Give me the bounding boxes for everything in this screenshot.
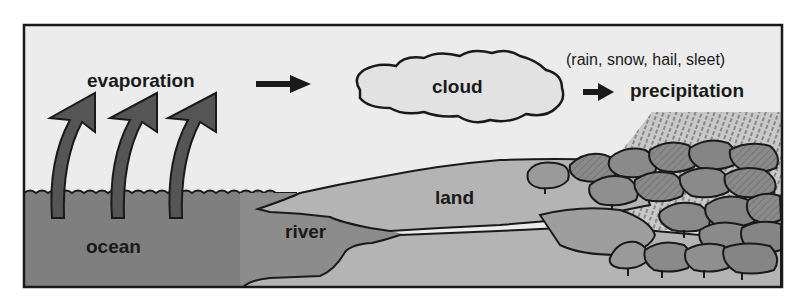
label-river: river [285,222,326,241]
label-land: land [435,188,474,207]
diagram-canvas [0,0,804,306]
label-cloud: cloud [432,77,483,96]
label-ocean: ocean [86,237,141,256]
label-evaporation: evaporation [87,71,195,90]
label-precipitation: precipitation [630,81,744,100]
label-precipitation-types: (rain, snow, hail, sleet) [566,52,725,68]
water-cycle-diagram: evaporation cloud (rain, snow, hail, sle… [0,0,804,306]
